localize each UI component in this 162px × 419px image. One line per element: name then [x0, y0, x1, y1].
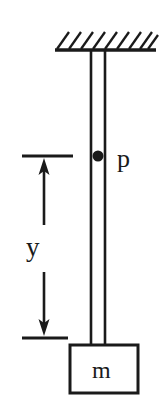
physics-diagram: y p m — [0, 0, 162, 419]
hatch-stroke — [81, 32, 93, 49]
mass-label-m: m — [92, 358, 111, 382]
hatch-stroke — [117, 32, 129, 49]
dimension-arrow-down — [39, 272, 50, 336]
dimension-arrow-up — [39, 158, 50, 225]
distance-label-y: y — [26, 234, 40, 261]
hatch-stroke — [93, 32, 105, 49]
hanging-rod — [91, 50, 105, 348]
ceiling-support — [55, 32, 158, 50]
hatch-stroke — [129, 32, 141, 49]
ceiling-hatching — [57, 32, 158, 49]
pivot-point-marker — [93, 151, 104, 162]
pivot-label-p: p — [117, 146, 130, 172]
hatch-stroke — [69, 32, 81, 49]
diagram-canvas — [0, 0, 162, 419]
hatch-stroke — [57, 32, 69, 49]
hatch-stroke — [105, 32, 117, 49]
